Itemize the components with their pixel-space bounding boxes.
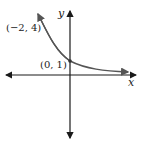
point-label-b: (0, 1) (40, 59, 67, 70)
point-label-a: (−2, 4) (6, 22, 41, 33)
y-axis-label: y (57, 7, 65, 20)
x-axis-label: x (128, 76, 135, 89)
point-0-1 (68, 59, 72, 63)
graph: y x (−2, 4) (0, 1) (0, 0, 141, 143)
